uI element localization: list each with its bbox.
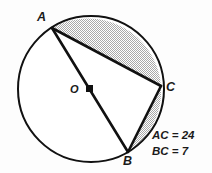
point-label-o: O — [70, 84, 79, 95]
center-point-marker — [86, 85, 93, 92]
point-label-c: C — [166, 81, 175, 94]
given-ac: AC = 24 — [152, 127, 195, 143]
given-bc: BC = 7 — [152, 143, 195, 159]
point-label-b: B — [123, 155, 132, 168]
point-label-a: A — [37, 11, 46, 24]
given-values-block: AC = 24 BC = 7 — [152, 127, 195, 159]
geometry-figure: A C B O AC = 24 BC = 7 — [0, 0, 212, 173]
